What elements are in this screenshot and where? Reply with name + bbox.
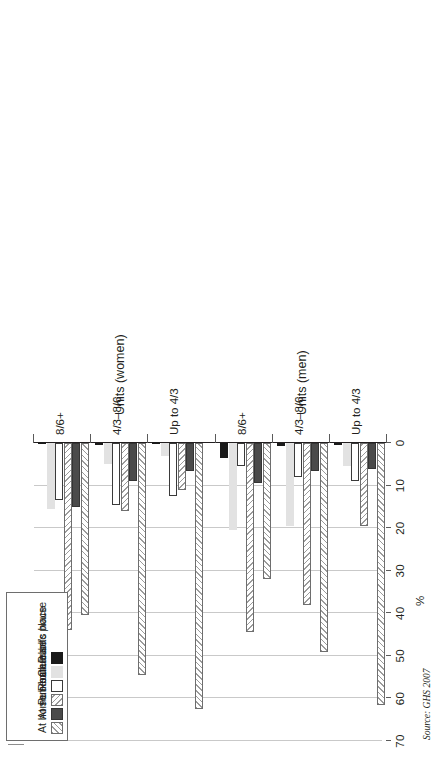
chart-stage: 706050403020100 % Up to 4/34/3–8/68/6+Up…: [0, 0, 438, 776]
bar: [38, 443, 46, 445]
axis-tick-label: 30: [394, 551, 406, 591]
bar: [55, 443, 63, 500]
axis-tick: [386, 740, 391, 741]
category-label: Up to 4/3: [350, 388, 362, 435]
bar: [129, 443, 137, 481]
bar: [169, 443, 177, 496]
legend-label: Public place: [36, 606, 48, 663]
legend-item: Club: [51, 666, 63, 678]
bar: [104, 443, 112, 464]
value-axis-title: %: [414, 596, 426, 606]
source-note: Source: GHS 2007: [422, 669, 432, 740]
bar: [334, 443, 342, 445]
axis-tick-label: 20: [394, 508, 406, 548]
bar: [95, 443, 103, 445]
legend-swatch: [51, 708, 63, 720]
bar: [351, 443, 359, 481]
bar: [229, 443, 237, 530]
page-footer-rule: [8, 744, 24, 745]
bar: [277, 443, 285, 446]
category-separator: [329, 434, 330, 443]
legend-swatch: [51, 680, 63, 692]
legend-swatch: [51, 694, 63, 706]
legend-item: At home: [51, 722, 63, 734]
bar: [286, 443, 294, 526]
category-separator: [33, 434, 34, 443]
axis-tick: [386, 612, 391, 613]
bar: [246, 443, 254, 632]
gridline: [34, 655, 382, 656]
bar: [138, 443, 146, 675]
gridline: [34, 697, 382, 698]
axis-tick-label: 10: [394, 466, 406, 506]
bar: [294, 443, 302, 477]
bar: [254, 443, 262, 483]
category-separator: [386, 434, 387, 443]
bar: [377, 443, 385, 705]
category-label: 8/6+: [236, 412, 248, 435]
bar: [152, 443, 160, 445]
bar: [195, 443, 203, 709]
bar: [368, 443, 376, 469]
axis-tick: [386, 570, 391, 571]
bar: [311, 443, 319, 471]
legend: At homeAt someone else's housePub/barRes…: [6, 592, 68, 741]
axis-tick-label: 0: [394, 423, 406, 463]
axis-tick-label: 40: [394, 593, 406, 633]
bar: [121, 443, 129, 511]
bar: [186, 443, 194, 471]
axis-tick-label: 60: [394, 678, 406, 718]
axis-tick-label: 70: [394, 721, 406, 761]
category-label: Up to 4/3: [168, 388, 180, 435]
bar: [237, 443, 245, 466]
category-separator: [90, 434, 91, 443]
bar: [263, 443, 271, 579]
category-separator: [147, 434, 148, 443]
axis-tick: [386, 485, 391, 486]
legend-item: At someone else's house: [51, 708, 63, 720]
legend-item: Public place: [51, 652, 63, 664]
axis-tick: [386, 655, 391, 656]
bar: [72, 443, 80, 507]
category-separator: [272, 434, 273, 443]
bar: [220, 443, 228, 458]
legend-swatch: [51, 666, 63, 678]
bar: [343, 443, 351, 466]
bar: [47, 443, 55, 509]
axis-tick-label: 50: [394, 636, 406, 676]
legend-item: Pub/bar: [51, 694, 63, 706]
axis-tick: [386, 527, 391, 528]
panel-title: Units (men): [295, 350, 309, 415]
legend-swatch: [51, 722, 63, 734]
legend-item: Restaurant: [51, 680, 63, 692]
bar: [178, 443, 186, 490]
gridline: [34, 740, 382, 741]
category-separator: [215, 434, 216, 443]
axis-tick: [386, 697, 391, 698]
category-label: 8/6+: [54, 412, 66, 435]
bar: [320, 443, 328, 652]
bar: [303, 443, 311, 605]
bar: [112, 443, 120, 505]
bar: [360, 443, 368, 526]
bar: [161, 443, 169, 456]
bar: [81, 443, 89, 615]
panel-title: Units (women): [113, 334, 127, 415]
legend-swatch: [51, 652, 63, 664]
